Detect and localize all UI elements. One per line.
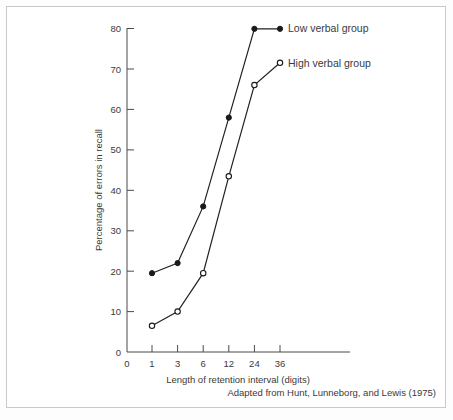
y-tick-label-30: 30 — [110, 225, 121, 236]
figure-page: 80 70 60 50 40 30 20 10 0 0 1 3 6 12 24 … — [0, 0, 453, 420]
series-line-low-verbal — [152, 29, 280, 273]
y-tick-label-50: 50 — [110, 144, 121, 155]
x-tick-label-0: 0 — [124, 358, 129, 369]
y-tick-label-40: 40 — [110, 185, 121, 196]
y-tick-label-60: 60 — [110, 104, 121, 115]
x-tick-label-1: 1 — [149, 358, 154, 369]
series-markers-low-verbal — [149, 26, 282, 276]
legend-entry-high-verbal: High verbal group — [288, 57, 371, 69]
legend-label-high-verbal: High verbal group — [288, 57, 371, 69]
x-axis-ticks — [152, 345, 280, 352]
y-axis-ticks — [127, 29, 134, 312]
legend-entry-low-verbal: Low verbal group — [288, 22, 369, 34]
x-tick-label-12: 12 — [224, 358, 235, 369]
y-tick-label-20: 20 — [110, 266, 121, 277]
series-line-high-verbal — [152, 63, 280, 326]
series-markers-high-verbal — [149, 60, 282, 328]
y-tick-label-70: 70 — [110, 64, 121, 75]
y-axis-title: Percentage of errors in recall — [93, 129, 104, 251]
y-tick-label-0: 0 — [116, 347, 121, 358]
y-tick-label-80: 80 — [110, 23, 121, 34]
x-axis-title: Length of retention interval (digits) — [166, 374, 310, 385]
x-tick-label-24: 24 — [249, 358, 260, 369]
x-tick-label-3: 3 — [175, 358, 180, 369]
y-tick-label-10: 10 — [110, 306, 121, 317]
legend-label-low-verbal: Low verbal group — [288, 22, 369, 34]
x-tick-label-6: 6 — [201, 358, 206, 369]
figure-credit: Adapted from Hunt, Lunneborg, and Lewis … — [227, 387, 436, 398]
line-chart: 80 70 60 50 40 30 20 10 0 0 1 3 6 12 24 … — [0, 0, 453, 420]
x-tick-label-36: 36 — [275, 358, 286, 369]
